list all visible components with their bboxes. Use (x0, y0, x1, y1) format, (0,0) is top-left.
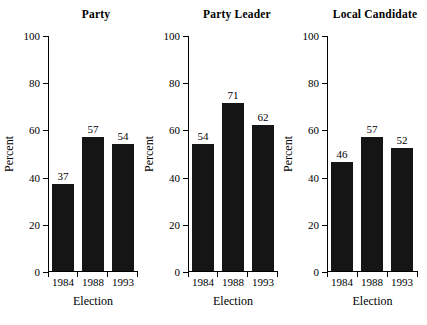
bar: 52 (391, 148, 413, 271)
y-tick-label: 0 (35, 267, 41, 278)
bar: 54 (192, 144, 214, 271)
y-tick-label: 0 (175, 267, 181, 278)
y-axis-line (188, 36, 189, 272)
y-tick-mark (43, 36, 49, 37)
y-axis-line (327, 36, 328, 272)
y-tick-mark (322, 178, 328, 179)
plot-area: 0 20 40 60 80 100 (188, 36, 278, 272)
bar-value-label: 54 (118, 131, 129, 142)
y-tick-mark (43, 225, 49, 226)
y-tick-label: 80 (308, 78, 319, 89)
bar-value-label: 46 (337, 149, 348, 160)
y-tick-mark (43, 178, 49, 179)
x-axis-line (188, 271, 278, 272)
y-tick-mark (183, 178, 189, 179)
figure-panel-group: Party Percent 0 20 40 60 (0, 0, 427, 325)
bar: 57 (82, 137, 104, 272)
chart-panel-local-candidate: Local Candidate Percent 0 20 40 60 (279, 0, 427, 325)
bar-value-label: 71 (228, 90, 239, 101)
y-tick-mark (322, 225, 328, 226)
plot-area: 0 20 40 60 80 100 (48, 36, 138, 272)
x-tick-label: 1988 (361, 277, 383, 288)
y-tick-mark (183, 130, 189, 131)
y-tick-label: 100 (303, 31, 320, 42)
y-axis-title: Percent (2, 136, 17, 172)
x-axis-title: Election (327, 294, 418, 309)
panel-title: Party Leader (140, 8, 290, 20)
x-tick-label-row: 1984 1988 1993 (48, 274, 138, 290)
y-tick-label: 40 (169, 172, 180, 183)
panel-title: Party (0, 8, 150, 20)
x-tick-label: 1984 (192, 277, 214, 288)
panel-title: Local Candidate (279, 8, 427, 20)
bar: 62 (252, 125, 274, 271)
x-axis-title: Election (48, 294, 138, 309)
bar: 71 (222, 103, 244, 271)
bar: 46 (331, 162, 353, 271)
y-tick-label: 80 (169, 78, 180, 89)
bar-value-label: 57 (88, 124, 99, 135)
x-tick-label-row: 1984 1988 1993 (188, 274, 278, 290)
x-axis-line (48, 271, 138, 272)
y-tick-label: 20 (169, 219, 180, 230)
x-tick-label: 1988 (222, 277, 244, 288)
y-axis-title: Percent (281, 136, 296, 172)
y-tick-label: 20 (308, 219, 319, 230)
y-axis-line (48, 36, 49, 272)
y-tick-mark (322, 36, 328, 37)
bar: 37 (52, 184, 74, 271)
y-tick-label: 60 (29, 125, 40, 136)
chart-panel-party: Party Percent 0 20 40 60 (0, 0, 150, 325)
y-tick-label: 40 (308, 172, 319, 183)
x-tick-label: 1993 (252, 277, 274, 288)
y-tick-label: 80 (29, 78, 40, 89)
y-tick-label: 60 (308, 125, 319, 136)
bar-value-label: 57 (367, 124, 378, 135)
x-tick-label: 1993 (391, 277, 413, 288)
bar-value-label: 62 (258, 112, 269, 123)
x-tick-label: 1988 (82, 277, 104, 288)
y-tick-mark (183, 36, 189, 37)
x-axis-line (327, 271, 418, 272)
y-tick-mark (183, 83, 189, 84)
y-tick-label: 60 (169, 125, 180, 136)
chart-panel-party-leader: Party Leader Percent 0 20 40 60 (140, 0, 290, 325)
y-tick-mark (43, 130, 49, 131)
y-tick-mark (322, 83, 328, 84)
bar-value-label: 37 (58, 171, 69, 182)
y-tick-label: 20 (29, 219, 40, 230)
y-tick-label: 40 (29, 172, 40, 183)
bar: 57 (361, 137, 383, 272)
bar: 54 (112, 144, 134, 271)
y-tick-mark (183, 225, 189, 226)
x-tick-label: 1984 (331, 277, 353, 288)
y-tick-mark (322, 130, 328, 131)
x-tick-label: 1993 (112, 277, 134, 288)
y-tick-mark (43, 83, 49, 84)
y-tick-label: 100 (24, 31, 41, 42)
bar-value-label: 52 (397, 135, 408, 146)
plot-area: 0 20 40 60 80 100 (327, 36, 418, 272)
y-tick-label: 100 (164, 31, 181, 42)
y-tick-label: 0 (314, 267, 320, 278)
x-tick-label: 1984 (52, 277, 74, 288)
x-axis-title: Election (188, 294, 278, 309)
x-tick-label-row: 1984 1988 1993 (327, 274, 418, 290)
bar-value-label: 54 (198, 131, 209, 142)
y-axis-title: Percent (142, 136, 157, 172)
